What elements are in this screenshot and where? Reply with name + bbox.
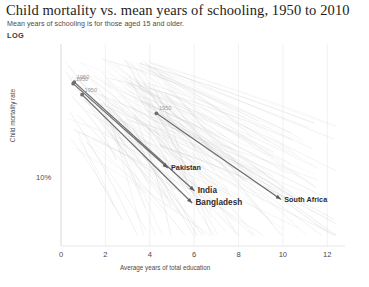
x-tick-4: 4: [148, 250, 152, 259]
year-label-south-africa: 1950: [159, 105, 171, 111]
x-tick-2: 2: [103, 250, 107, 259]
chart-page: Child mortality vs. mean years of school…: [0, 0, 369, 287]
country-label-south-africa[interactable]: South Africa: [284, 195, 327, 204]
country-label-pakistan[interactable]: Pakistan: [171, 163, 201, 172]
x-tick-6: 6: [192, 250, 196, 259]
year-label-bangladesh: 1950: [85, 87, 97, 93]
country-label-bangladesh[interactable]: Bangladesh: [195, 198, 242, 207]
start-marker-pakistan[interactable]: [71, 82, 75, 86]
y-tick-10pct: 10%: [36, 173, 51, 182]
x-tick-10: 10: [279, 250, 287, 259]
chart-canvas: [0, 0, 369, 287]
x-axis-label: Average years of total education: [120, 264, 210, 271]
start-marker-south-africa[interactable]: [155, 111, 159, 115]
year-label-pakistan: 1950: [76, 76, 88, 82]
x-tick-8: 8: [236, 250, 240, 259]
x-tick-0: 0: [59, 250, 63, 259]
gridlines: [105, 44, 327, 246]
country-label-india[interactable]: India: [198, 186, 217, 195]
background-country-lines: [65, 59, 336, 236]
y-axis-label: Child mortality rate: [9, 76, 16, 156]
x-tick-12: 12: [323, 250, 331, 259]
